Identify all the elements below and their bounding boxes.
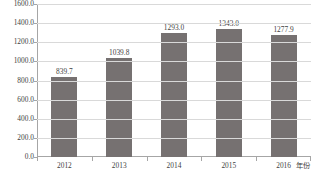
y-axis-tick (34, 138, 37, 139)
plot-area: 839.71039.81293.01343.01277.9 (37, 4, 311, 157)
y-axis-tick-label: 400.0 (0, 115, 34, 123)
x-axis-tick-label: 2014 (167, 161, 182, 171)
x-axis-tick-label: 2015 (221, 161, 236, 171)
gridline (37, 4, 311, 5)
bar-value-label: 1293.0 (164, 24, 184, 32)
x-axis-tick-labels: 20122013201420152016 (37, 161, 311, 173)
bar-value-label: 839.7 (56, 68, 73, 76)
y-axis-tick (34, 100, 37, 101)
y-axis-tick-label: 800.0 (0, 77, 34, 85)
y-axis-tick (34, 42, 37, 43)
gridline (37, 81, 311, 82)
gridline (37, 61, 311, 62)
y-axis-tick-label: 1000.0 (0, 57, 34, 65)
y-axis-tick (34, 81, 37, 82)
x-axis-tick-label: 2012 (57, 161, 72, 171)
bar-value-label: 1277.9 (273, 26, 293, 34)
bar[interactable] (51, 77, 77, 157)
bar[interactable] (106, 58, 132, 157)
y-axis-tick-label: 1400.0 (0, 19, 34, 27)
bar-value-label: 1039.8 (109, 49, 129, 57)
x-axis-tick-label: 2013 (112, 161, 127, 171)
gridline (37, 119, 311, 120)
bar-chart: 0.0200.0400.0600.0800.01000.01200.01400.… (0, 0, 324, 178)
y-axis-tick (34, 61, 37, 62)
y-axis-tick-label: 0.0 (0, 153, 34, 161)
x-axis-tick-label: 2016 (276, 161, 291, 171)
gridline (37, 138, 311, 139)
y-axis-tick-label: 600.0 (0, 96, 34, 104)
y-axis-tick (34, 4, 37, 5)
y-axis-tick-labels: 0.0200.0400.0600.0800.01000.01200.01400.… (0, 0, 34, 178)
gridline (37, 42, 311, 43)
y-axis-tick-label: 200.0 (0, 134, 34, 142)
y-axis-tick (34, 119, 37, 120)
gridline (37, 100, 311, 101)
y-axis-tick-label: 1600.0 (0, 0, 34, 8)
x-axis-title: 年份 (296, 161, 310, 171)
y-axis-tick (34, 23, 37, 24)
y-axis-tick-label: 1200.0 (0, 38, 34, 46)
gridline (37, 23, 311, 24)
